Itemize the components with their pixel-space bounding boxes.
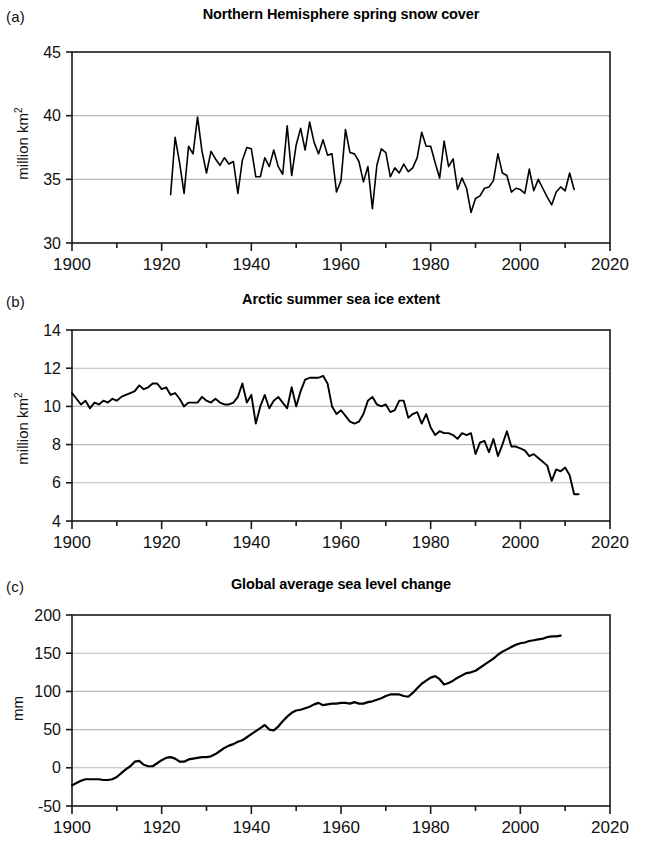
- svg-text:10: 10: [43, 398, 61, 415]
- panel-c-plot: -500501001502001900192019401960198020002…: [0, 570, 661, 856]
- svg-text:2020: 2020: [591, 533, 629, 552]
- svg-text:2000: 2000: [501, 533, 539, 552]
- svg-text:200: 200: [34, 607, 61, 624]
- svg-text:1900: 1900: [53, 533, 91, 552]
- svg-text:8: 8: [52, 436, 61, 453]
- svg-text:6: 6: [52, 474, 61, 491]
- svg-text:1940: 1940: [232, 255, 270, 274]
- svg-text:1980: 1980: [412, 533, 450, 552]
- svg-text:-50: -50: [38, 798, 61, 815]
- climate-evidence-figure: (a) Northern Hemisphere spring snow cove…: [0, 0, 661, 856]
- svg-text:35: 35: [43, 171, 61, 188]
- svg-text:1960: 1960: [322, 818, 360, 837]
- svg-text:12: 12: [43, 360, 61, 377]
- svg-text:0: 0: [52, 759, 61, 776]
- svg-text:1900: 1900: [53, 255, 91, 274]
- svg-text:2020: 2020: [591, 818, 629, 837]
- svg-text:1920: 1920: [143, 255, 181, 274]
- svg-text:30: 30: [43, 235, 61, 252]
- svg-text:2000: 2000: [501, 255, 539, 274]
- panel-c-sea-level: (c) Global average sea level change mm -…: [0, 570, 625, 856]
- svg-text:40: 40: [43, 107, 61, 124]
- svg-text:100: 100: [34, 683, 61, 700]
- panel-b-sea-ice: (b) Arctic summer sea ice extent million…: [0, 285, 625, 570]
- svg-text:2000: 2000: [501, 818, 539, 837]
- svg-text:1980: 1980: [412, 818, 450, 837]
- panel-b-plot: 4681012141900192019401960198020002020: [0, 285, 661, 570]
- svg-text:150: 150: [34, 645, 61, 662]
- svg-text:1900: 1900: [53, 818, 91, 837]
- svg-text:1960: 1960: [322, 533, 360, 552]
- svg-text:50: 50: [43, 721, 61, 738]
- panel-a-snow-cover: (a) Northern Hemisphere spring snow cove…: [0, 0, 625, 285]
- panel-a-plot: 303540451900192019401960198020002020: [0, 0, 661, 285]
- svg-text:1940: 1940: [232, 533, 270, 552]
- svg-text:1920: 1920: [143, 533, 181, 552]
- svg-text:1940: 1940: [232, 818, 270, 837]
- svg-text:1960: 1960: [322, 255, 360, 274]
- svg-text:1980: 1980: [412, 255, 450, 274]
- svg-text:14: 14: [43, 322, 61, 339]
- svg-text:45: 45: [43, 44, 61, 61]
- svg-text:2020: 2020: [591, 255, 629, 274]
- svg-text:4: 4: [52, 513, 61, 530]
- svg-text:1920: 1920: [143, 818, 181, 837]
